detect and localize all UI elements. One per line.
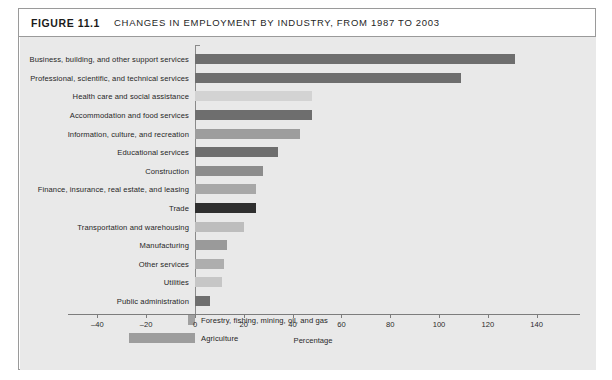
bar[interactable] — [195, 91, 312, 101]
bar-category-label: Public administration — [117, 297, 195, 306]
bar-category-label: Manufacturing — [140, 241, 195, 250]
x-axis-tick-label: 80 — [386, 320, 394, 329]
x-axis-tick-label: 0 — [193, 320, 197, 329]
bar[interactable] — [195, 222, 244, 232]
bar-row: Other services — [20, 255, 596, 274]
x-axis-tick — [390, 314, 391, 318]
x-axis-line — [68, 314, 580, 315]
bar-row: Accommodation and food services — [20, 106, 596, 125]
bar-row: Construction — [20, 162, 596, 181]
x-axis-tick-label: –20 — [140, 320, 153, 329]
bar-category-label: Forestry, fishing, mining, oil, and gas — [195, 315, 328, 324]
x-axis-title: Percentage — [20, 336, 596, 345]
bar-row: Utilities — [20, 273, 596, 292]
bar[interactable] — [195, 129, 300, 139]
bar-category-label: Transportation and warehousing — [77, 222, 195, 231]
x-axis-tick — [293, 314, 294, 318]
x-axis-tick — [537, 314, 538, 318]
x-axis-tick — [244, 314, 245, 318]
bar-row: Public administration — [20, 292, 596, 311]
bar[interactable] — [195, 166, 263, 176]
bar-category-label: Accommodation and food services — [70, 111, 195, 120]
bar-category-label: Trade — [169, 204, 195, 213]
bar-category-label: Construction — [145, 166, 195, 175]
bar[interactable] — [195, 110, 312, 120]
x-axis-tick — [488, 314, 489, 318]
figure-frame: FIGURE 11.1 CHANGES IN EMPLOYMENT BY IND… — [18, 8, 596, 370]
x-axis-tick-label: 20 — [240, 320, 248, 329]
bar-chart: Business, building, and other support se… — [20, 37, 596, 370]
x-axis-title-label: Percentage — [294, 336, 333, 345]
x-axis-tick — [195, 314, 196, 318]
x-axis-tick-label: 120 — [481, 320, 494, 329]
bar[interactable] — [195, 296, 210, 306]
bar-row: Transportation and warehousing — [20, 217, 596, 236]
bar-row: Professional, scientific, and technical … — [20, 69, 596, 88]
figure-number: FIGURE 11.1 — [31, 17, 100, 29]
x-axis-tick-label: 60 — [337, 320, 345, 329]
bar-category-label: Professional, scientific, and technical … — [30, 73, 195, 82]
x-axis-tick — [439, 314, 440, 318]
x-axis-tick-label: –40 — [91, 320, 104, 329]
x-axis-tick-label: 40 — [288, 320, 296, 329]
bar[interactable] — [195, 184, 256, 194]
bar-row: Health care and social assistance — [20, 87, 596, 106]
bar-row: Finance, insurance, real estate, and lea… — [20, 180, 596, 199]
bar-row: Educational services — [20, 143, 596, 162]
bar[interactable] — [195, 73, 461, 83]
x-axis-tick-label: 140 — [530, 320, 543, 329]
bar-category-label: Utilities — [164, 278, 195, 287]
bar-category-label: Health care and social assistance — [73, 92, 195, 101]
bar[interactable] — [195, 259, 224, 269]
bar-category-label: Other services — [139, 259, 195, 268]
bar[interactable] — [195, 147, 278, 157]
figure-header: FIGURE 11.1 CHANGES IN EMPLOYMENT BY IND… — [19, 9, 595, 37]
plot-area: Business, building, and other support se… — [20, 37, 596, 370]
x-axis-tick — [341, 314, 342, 318]
bar-category-label: Educational services — [117, 148, 195, 157]
bar-row: Manufacturing — [20, 236, 596, 255]
x-axis-tick — [97, 314, 98, 318]
bar-category-label: Finance, insurance, real estate, and lea… — [38, 185, 195, 194]
bar[interactable] — [195, 203, 256, 213]
x-axis-tick — [146, 314, 147, 318]
bar-row: Business, building, and other support se… — [20, 50, 596, 69]
x-axis-tick-label: 100 — [433, 320, 446, 329]
bar[interactable] — [195, 54, 515, 64]
bar-row: Information, culture, and recreation — [20, 124, 596, 143]
figure-title: CHANGES IN EMPLOYMENT BY INDUSTRY, FROM … — [114, 17, 440, 28]
bar-row: Trade — [20, 199, 596, 218]
bar-category-label: Information, culture, and recreation — [68, 129, 195, 138]
bar-rows: Business, building, and other support se… — [20, 50, 596, 348]
bar[interactable] — [195, 277, 222, 287]
bar-category-label: Business, building, and other support se… — [29, 55, 195, 64]
figure-container: FIGURE 11.1 CHANGES IN EMPLOYMENT BY IND… — [0, 0, 612, 380]
bar[interactable] — [195, 240, 227, 250]
